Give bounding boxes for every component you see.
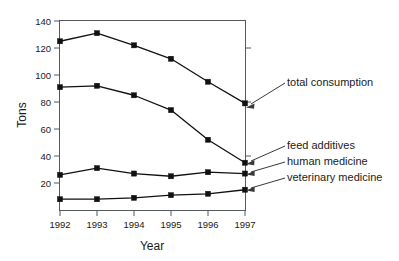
annotation-veterinary-medicine: veterinary medicine <box>287 171 382 183</box>
data-point-marker <box>205 170 210 175</box>
data-point-marker <box>242 187 247 192</box>
data-point-marker <box>205 191 210 196</box>
data-point-marker <box>57 39 62 44</box>
x-tick-label: 1993 <box>86 219 107 230</box>
y-tick-label: 60 <box>40 124 51 135</box>
data-point-marker <box>242 171 247 176</box>
data-point-marker <box>94 197 99 202</box>
x-axis-title: Year <box>140 239 164 253</box>
data-point-marker <box>94 166 99 171</box>
data-point-marker <box>131 195 136 200</box>
x-tick-label: 1995 <box>160 219 181 230</box>
y-axis-title: Tons <box>15 102 29 127</box>
y-tick-label: 40 <box>40 151 51 162</box>
x-tick-label: 1994 <box>123 219 144 230</box>
data-point-marker <box>57 172 62 177</box>
y-tick-label: 140 <box>35 16 51 27</box>
x-tick-label: 1992 <box>49 219 70 230</box>
data-point-marker <box>131 171 136 176</box>
line-chart: 140 120 100 80 60 40 20 Tons 1992 1993 1… <box>0 0 399 261</box>
annotation-feed-additives: feed additives <box>287 139 355 151</box>
data-point-marker <box>57 85 62 90</box>
data-point-marker <box>168 174 173 179</box>
y-tick-label: 80 <box>40 97 51 108</box>
x-tick-label: 1996 <box>197 219 218 230</box>
data-point-marker <box>168 108 173 113</box>
data-point-marker <box>57 197 62 202</box>
data-point-marker <box>242 160 247 165</box>
data-point-marker <box>205 79 210 84</box>
annotation-total-consumption: total consumption <box>287 76 373 88</box>
data-point-marker <box>242 101 247 106</box>
annotation-human-medicine: human medicine <box>287 155 368 167</box>
x-tick-label: 1997 <box>234 219 255 230</box>
y-tick-label: 20 <box>40 178 51 189</box>
y-tick-label: 100 <box>35 70 51 81</box>
data-point-marker <box>205 137 210 142</box>
data-point-marker <box>131 93 136 98</box>
y-tick-label: 120 <box>35 43 51 54</box>
data-point-marker <box>168 193 173 198</box>
data-point-marker <box>168 56 173 61</box>
data-point-marker <box>131 43 136 48</box>
data-point-marker <box>94 83 99 88</box>
data-point-marker <box>94 31 99 36</box>
